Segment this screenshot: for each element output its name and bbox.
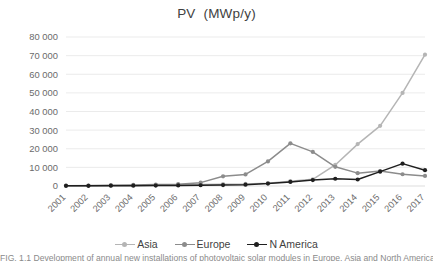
x-axis-tick-label: 2004 xyxy=(113,192,135,214)
data-point-europe xyxy=(243,172,247,176)
legend-swatch-icon xyxy=(175,240,195,249)
data-point-n-america xyxy=(154,183,158,187)
legend-swatch-icon xyxy=(115,240,135,249)
data-point-europe xyxy=(333,165,337,169)
x-axis-tick-label: 2011 xyxy=(271,192,292,213)
data-point-n-america xyxy=(356,177,360,181)
y-axis-tick-label: 50 000 xyxy=(29,87,58,98)
data-point-n-america xyxy=(288,180,292,184)
data-point-n-america xyxy=(378,170,382,174)
x-axis-tick-label: 2015 xyxy=(360,192,382,214)
data-point-n-america xyxy=(199,183,203,187)
x-axis-tick-label: 2002 xyxy=(68,192,90,214)
data-point-n-america xyxy=(176,183,180,187)
data-point-asia xyxy=(356,142,360,146)
legend-item-europe[interactable]: Europe xyxy=(175,238,231,250)
x-axis-tick-label: 2006 xyxy=(158,192,180,214)
x-axis-tick-label: 2012 xyxy=(293,192,315,214)
x-axis-tick-label: 2005 xyxy=(136,192,158,214)
x-axis-tick-label: 2003 xyxy=(91,192,113,214)
data-point-n-america xyxy=(243,183,247,187)
data-point-asia xyxy=(423,53,427,57)
x-axis-tick-label: 2009 xyxy=(225,192,247,214)
chart-legend: AsiaEuropeN America xyxy=(0,238,433,250)
x-axis-tick-label: 2014 xyxy=(338,192,360,214)
data-point-n-america xyxy=(311,178,315,182)
x-axis-tick-label: 2016 xyxy=(382,192,404,214)
y-axis-tick-label: 40 000 xyxy=(29,106,58,117)
y-axis-tick-label: 0 xyxy=(53,180,58,191)
figure-caption: FIG. 1.1 Development of annual new insta… xyxy=(0,253,433,261)
data-point-n-america xyxy=(131,184,135,188)
x-axis-tick-label: 2007 xyxy=(181,192,203,214)
data-point-n-america xyxy=(221,183,225,187)
y-axis-tick-label: 20 000 xyxy=(29,143,58,154)
legend-swatch-icon xyxy=(247,240,267,249)
series-line-europe xyxy=(66,143,425,185)
legend-label: Europe xyxy=(197,238,231,250)
y-axis-tick-label: 80 000 xyxy=(29,31,58,42)
data-point-europe xyxy=(266,159,270,163)
legend-item-n-america[interactable]: N America xyxy=(247,238,317,250)
pv-line-chart: PV (MWp/y) 010 00020 00030 00040 00050 0… xyxy=(0,0,433,261)
data-point-asia xyxy=(378,124,382,128)
data-point-europe xyxy=(423,174,427,178)
legend-label: N America xyxy=(269,238,317,250)
data-point-europe xyxy=(311,150,315,154)
data-point-europe xyxy=(356,171,360,175)
data-point-n-america xyxy=(86,184,90,188)
x-axis-tick-label: 2017 xyxy=(405,192,427,214)
data-point-europe xyxy=(221,174,225,178)
data-point-n-america xyxy=(109,184,113,188)
data-point-europe xyxy=(400,172,404,176)
x-axis-tick-label: 2010 xyxy=(248,192,270,214)
data-point-n-america xyxy=(64,184,68,188)
y-axis-tick-label: 30 000 xyxy=(29,125,58,136)
data-point-n-america xyxy=(423,168,427,172)
data-point-n-america xyxy=(333,177,337,181)
data-point-asia xyxy=(400,91,404,95)
chart-plot-area: 010 00020 00030 00040 00050 00060 00070 … xyxy=(0,0,433,238)
x-axis-tick-label: 2001 xyxy=(46,192,68,214)
x-axis-tick-label: 2008 xyxy=(203,192,225,214)
data-point-n-america xyxy=(266,181,270,185)
y-axis-tick-label: 70 000 xyxy=(29,50,58,61)
legend-item-asia[interactable]: Asia xyxy=(115,238,157,250)
data-point-n-america xyxy=(400,162,404,166)
y-axis-tick-label: 10 000 xyxy=(29,162,58,173)
x-axis-tick-label: 2013 xyxy=(315,192,337,214)
legend-label: Asia xyxy=(137,238,157,250)
y-axis-tick-label: 60 000 xyxy=(29,69,58,80)
data-point-europe xyxy=(288,141,292,145)
